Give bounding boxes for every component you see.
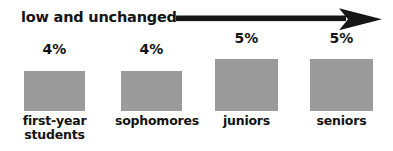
bar-group-juniors: 5% juniors [215, 0, 278, 151]
bar-value-label: 5% [310, 30, 373, 46]
bar-group-seniors: 5% seniors [310, 0, 373, 151]
bar-rect [121, 71, 182, 111]
bar-category-label-line1: seniors [304, 114, 380, 129]
bar-group-first-year-students: 4% first-year students [24, 0, 85, 151]
bar-group-sophomores: 4% sophomores [121, 0, 182, 151]
bar-category-label-line1: juniors [209, 114, 285, 129]
bar-value-label: 4% [121, 41, 182, 57]
bar-category-label-line1: sophomores [115, 114, 188, 129]
bar-rect [310, 59, 373, 111]
bar-category-label-line2: students [18, 128, 91, 143]
bar-chart-figure: low and unchanged 4% first-year students… [0, 0, 393, 151]
bar-rect [24, 71, 85, 111]
bar-value-label: 5% [215, 30, 278, 46]
bar-value-label: 4% [24, 41, 85, 57]
bar-rect [215, 59, 278, 111]
bars-layer: 4% first-year students 4% sophomores 5% … [0, 0, 393, 151]
